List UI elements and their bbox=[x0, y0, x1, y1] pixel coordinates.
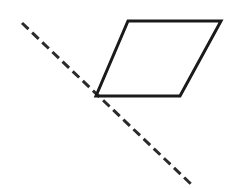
figure-canvas bbox=[0, 0, 227, 188]
geometry-figure bbox=[0, 0, 227, 188]
background-rect bbox=[0, 0, 227, 188]
